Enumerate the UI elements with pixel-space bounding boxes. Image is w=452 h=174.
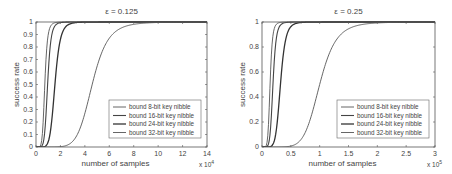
legend-entry: bound 32-bit key nibble xyxy=(357,129,423,137)
y-tick-label: 0.6 xyxy=(249,68,259,75)
y-tick-label: 0.6 xyxy=(23,68,33,75)
legend-entry: bound 24-bit key nibble xyxy=(129,120,195,128)
y-tick-label: 1 xyxy=(29,18,33,25)
x-tick-label: 8 xyxy=(132,150,136,157)
y-axis-label: success rate xyxy=(12,61,21,106)
x-exponent-label: x 104 xyxy=(199,159,214,168)
y-tick-label: 0.8 xyxy=(249,43,259,50)
legend-entry: bound 16-bit key nibble xyxy=(129,112,195,120)
chart-right: ε = 0.2500.511.522.5300.20.40.60.81numbe… xyxy=(226,0,452,174)
x-tick-label: 14 xyxy=(203,150,211,157)
y-tick-label: 0.5 xyxy=(23,81,33,88)
y-tick-label: 0.1 xyxy=(23,131,33,138)
x-tick-label: 4 xyxy=(83,150,87,157)
chart-title: ε = 0.125 xyxy=(105,7,138,16)
y-tick-label: 0.9 xyxy=(23,31,33,38)
x-tick-label: 0.5 xyxy=(286,150,296,157)
x-tick-label: 6 xyxy=(107,150,111,157)
x-exponent-label: x 105 xyxy=(427,159,442,168)
x-tick-label: 1 xyxy=(318,150,322,157)
y-tick-label: 0.2 xyxy=(249,118,259,125)
x-axis-label: number of samples xyxy=(81,159,149,168)
x-tick-label: 0 xyxy=(260,150,264,157)
chart-right-svg: ε = 0.2500.511.522.5300.20.40.60.81numbe… xyxy=(226,0,452,174)
y-tick-label: 0.2 xyxy=(23,118,33,125)
legend-entry: bound 24-bit key nibble xyxy=(357,120,423,128)
y-tick-label: 0.4 xyxy=(23,93,33,100)
x-tick-label: 2 xyxy=(375,150,379,157)
y-tick-label: 0 xyxy=(255,143,259,150)
y-tick-label: 0 xyxy=(29,143,33,150)
legend-entry: bound 32-bit key nibble xyxy=(129,129,195,137)
x-axis-label: number of samples xyxy=(308,159,376,168)
y-tick-label: 0.7 xyxy=(23,56,33,63)
x-tick-label: 3 xyxy=(433,150,437,157)
legend: bound 8-bit key nibblebound 16-bit key n… xyxy=(337,100,429,138)
y-tick-label: 0.8 xyxy=(23,43,33,50)
x-tick-label: 10 xyxy=(154,150,162,157)
chart-left: ε = 0.1250246810121400.10.20.30.40.50.60… xyxy=(0,0,226,174)
y-tick-label: 0.4 xyxy=(249,93,259,100)
y-tick-label: 0.3 xyxy=(23,106,33,113)
x-tick-label: 1.5 xyxy=(344,150,354,157)
x-tick-label: 2.5 xyxy=(401,150,411,157)
legend-entry: bound 8-bit key nibble xyxy=(129,103,191,111)
y-axis-label: success rate xyxy=(238,61,247,106)
legend-entry: bound 16-bit key nibble xyxy=(357,112,423,120)
x-tick-label: 2 xyxy=(58,150,62,157)
legend: bound 8-bit key nibblebound 16-bit key n… xyxy=(109,100,201,138)
legend-entry: bound 8-bit key nibble xyxy=(357,103,419,111)
x-tick-label: 12 xyxy=(179,150,187,157)
x-tick-label: 0 xyxy=(34,150,38,157)
y-tick-label: 1 xyxy=(255,18,259,25)
chart-left-svg: ε = 0.1250246810121400.10.20.30.40.50.60… xyxy=(0,0,226,174)
chart-title: ε = 0.25 xyxy=(334,7,363,16)
